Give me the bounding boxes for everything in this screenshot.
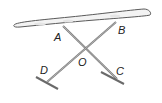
board-shading	[110, 15, 120, 18]
label-d: D	[40, 64, 48, 76]
board-shading	[34, 23, 46, 26]
label-b: B	[118, 24, 125, 36]
foot-d	[36, 77, 58, 89]
board-shading	[63, 20, 73, 23]
label-c: C	[116, 65, 124, 77]
label-a: A	[53, 31, 61, 43]
ironing-board-diagram: A B O D C	[0, 0, 162, 103]
label-o: O	[78, 56, 87, 68]
